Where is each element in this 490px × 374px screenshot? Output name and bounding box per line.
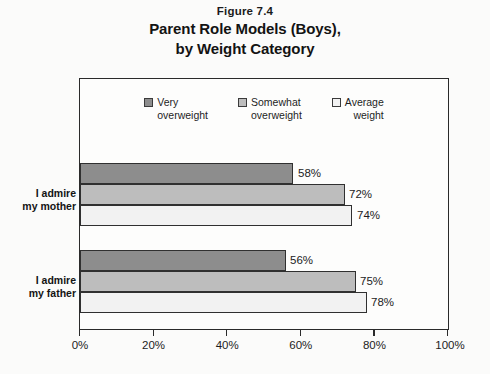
bar-mother-somewhat-overweight[interactable] xyxy=(80,184,345,205)
bar-label-father-average-weight: 78% xyxy=(371,295,394,309)
x-axis-tick-60 xyxy=(300,330,301,336)
figure-container: Figure 7.4 Parent Role Models (Boys), by… xyxy=(0,0,490,374)
bar-row-mother-somewhat-overweight: 72% xyxy=(80,184,448,205)
bar-row-father-average-weight: 78% xyxy=(80,292,448,313)
bar-label-mother-very-overweight: 58% xyxy=(298,166,321,180)
bar-row-mother-very-overweight: 58% xyxy=(80,163,448,184)
category-label-mother-line-2: my mother xyxy=(2,200,76,213)
bar-label-father-very-overweight: 56% xyxy=(290,253,313,267)
x-axis-tick-100 xyxy=(447,330,448,336)
bars-layer: 58% 72% 74% 56% 75% 78% xyxy=(80,78,448,330)
x-axis-tick-labels: 0% 20% 40% 60% 80% 100% xyxy=(0,338,490,354)
bar-group-father: 56% 75% 78% xyxy=(80,250,448,313)
x-axis-tick-20 xyxy=(153,330,154,336)
x-axis-tick-label-80: 80% xyxy=(363,338,386,352)
bar-father-somewhat-overweight[interactable] xyxy=(80,271,356,292)
bar-row-mother-average-weight: 74% xyxy=(80,205,448,226)
category-label-mother-line-1: I admire xyxy=(2,187,76,200)
bar-label-mother-somewhat-overweight: 72% xyxy=(349,187,372,201)
bar-group-mother: 58% 72% 74% xyxy=(80,163,448,226)
x-axis-tick-40 xyxy=(226,330,227,336)
x-axis-tick-80 xyxy=(373,330,374,336)
x-axis-ticks xyxy=(79,330,449,336)
x-axis-tick-0 xyxy=(79,330,80,336)
bar-father-very-overweight[interactable] xyxy=(80,250,286,271)
category-label-father-line-1: I admire xyxy=(2,274,76,287)
x-axis-tick-label-0: 0% xyxy=(72,338,89,352)
category-label-father-line-2: my father xyxy=(2,287,76,300)
category-label-mother: I admire my mother xyxy=(2,187,76,212)
x-axis-tick-label-40: 40% xyxy=(216,338,239,352)
category-axis-labels: I admire my mother I admire my father xyxy=(0,78,76,330)
category-label-father: I admire my father xyxy=(2,274,76,299)
bar-mother-very-overweight[interactable] xyxy=(80,163,293,184)
x-axis-tick-label-20: 20% xyxy=(142,338,165,352)
bar-row-father-very-overweight: 56% xyxy=(80,250,448,271)
bar-row-father-somewhat-overweight: 75% xyxy=(80,271,448,292)
figure-title-block: Figure 7.4 Parent Role Models (Boys), by… xyxy=(0,4,490,58)
bar-label-mother-average-weight: 74% xyxy=(357,208,380,222)
x-axis-tick-label-60: 60% xyxy=(289,338,312,352)
bar-mother-average-weight[interactable] xyxy=(80,205,352,226)
figure-title-line-2: by Weight Category xyxy=(0,39,490,58)
figure-number: Figure 7.4 xyxy=(0,4,490,18)
x-axis-tick-label-100: 100% xyxy=(435,338,464,352)
bar-father-average-weight[interactable] xyxy=(80,292,367,313)
bar-label-father-somewhat-overweight: 75% xyxy=(360,274,383,288)
figure-title-line-1: Parent Role Models (Boys), xyxy=(0,19,490,38)
